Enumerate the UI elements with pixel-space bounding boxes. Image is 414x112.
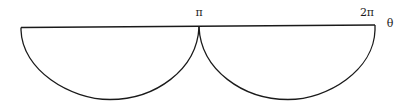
diagram-canvas: π 2π θ — [0, 0, 414, 112]
tick-label-pi: π — [195, 6, 202, 19]
arc-pi-to-2pi — [199, 25, 375, 100]
axis-label-theta: θ — [387, 17, 394, 30]
tick-label-2pi: 2π — [360, 6, 374, 19]
theta-axis — [21, 25, 375, 28]
arc-0-to-pi — [21, 27, 199, 100]
